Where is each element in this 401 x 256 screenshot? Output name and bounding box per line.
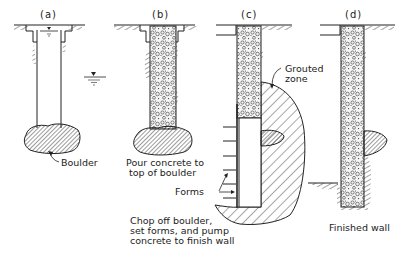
panel-a — [14, 25, 106, 162]
boulder-shape-b — [134, 126, 192, 155]
panel-b — [114, 25, 197, 155]
boulder-label: Boulder — [61, 157, 98, 168]
chop-boulder-label-line3: concrete to finish wall — [130, 235, 234, 246]
panel-c-label: (c) — [241, 9, 257, 20]
panel-a-label: (a) — [40, 9, 57, 20]
slurry-wall-boulder-diagram: (a) (b) (c) (d) Boulder Pour concrete to… — [0, 0, 401, 256]
panel-b-label: (b) — [152, 9, 169, 20]
panel-d-label: (d) — [345, 9, 362, 20]
forms-label: Forms — [175, 186, 204, 197]
panel-c — [215, 25, 305, 225]
boulder-shape-a — [24, 124, 80, 154]
pour-concrete-label-line2: top of boulder — [129, 167, 196, 178]
finished-wall-label: Finished wall — [329, 222, 390, 233]
grouted-zone-label-line2: zone — [285, 73, 308, 84]
panel-d — [308, 25, 395, 210]
